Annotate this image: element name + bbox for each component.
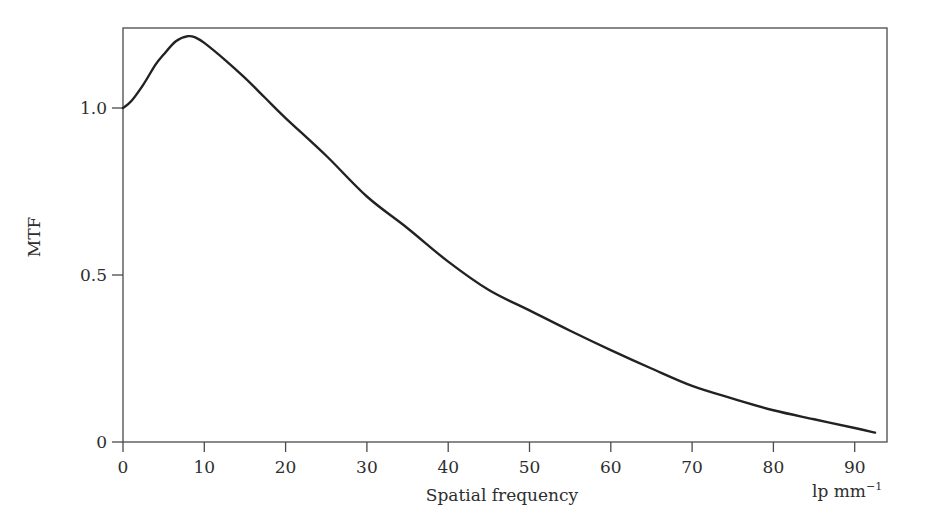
- y-tick-label: 0: [96, 432, 107, 452]
- x-tick-label: 60: [600, 457, 622, 477]
- x-tick-label: 40: [437, 457, 459, 477]
- y-tick-label: 1.0: [80, 98, 107, 118]
- x-tick-label: 80: [763, 457, 785, 477]
- x-axis-unit-exponent: −1: [866, 480, 882, 493]
- x-axis-unit-base: lp mm: [812, 481, 866, 501]
- x-axis-ticks: 0102030405060708090: [118, 442, 866, 477]
- y-axis-label: MTF: [24, 217, 44, 258]
- mtf-chart: 0102030405060708090 00.51.0 MTF Spatial …: [0, 0, 929, 524]
- x-tick-label: 30: [356, 457, 378, 477]
- x-tick-label: 10: [193, 457, 215, 477]
- x-tick-label: 0: [118, 457, 129, 477]
- x-tick-label: 90: [844, 457, 866, 477]
- plot-frame: [123, 28, 887, 442]
- x-tick-label: 70: [681, 457, 703, 477]
- x-tick-label: 20: [275, 457, 297, 477]
- x-tick-label: 50: [519, 457, 541, 477]
- y-axis-ticks: 00.51.0: [80, 98, 123, 452]
- y-tick-label: 0.5: [80, 265, 107, 285]
- x-axis-unit: lp mm−1: [812, 480, 882, 501]
- mtf-curve: [123, 36, 875, 433]
- x-axis-label: Spatial frequency: [426, 485, 579, 505]
